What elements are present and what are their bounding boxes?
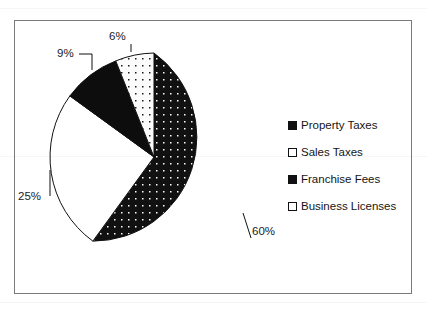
pie-label-property-taxes: 60% [252, 225, 275, 237]
leader-line-9 [79, 54, 92, 70]
pie-label-sales-taxes: 25% [18, 190, 41, 202]
legend-label: Sales Taxes [301, 146, 363, 158]
legend-swatch-icon [288, 202, 297, 211]
legend-swatch-icon [288, 148, 297, 157]
pie-label-business-licenses: 6% [109, 30, 126, 42]
chart-legend: Property Taxes Sales Taxes Franchise Fee… [288, 113, 410, 221]
legend-label: Property Taxes [301, 119, 378, 131]
leader-line-60 [243, 213, 251, 238]
legend-item-business-licenses: Business Licenses [288, 194, 410, 218]
legend-swatch-icon [288, 175, 297, 184]
legend-label: Franchise Fees [301, 173, 380, 185]
pie-label-franchise-fees: 9% [57, 47, 74, 59]
legend-item-property-taxes: Property Taxes [288, 113, 410, 137]
legend-item-sales-taxes: Sales Taxes [288, 140, 410, 164]
legend-swatch-icon [288, 121, 297, 130]
pie-chart-screenshot: 6% 9% 25% 60% Property Taxes Sales Taxes… [0, 0, 427, 313]
legend-label: Business Licenses [301, 200, 396, 212]
legend-item-franchise-fees: Franchise Fees [288, 167, 410, 191]
